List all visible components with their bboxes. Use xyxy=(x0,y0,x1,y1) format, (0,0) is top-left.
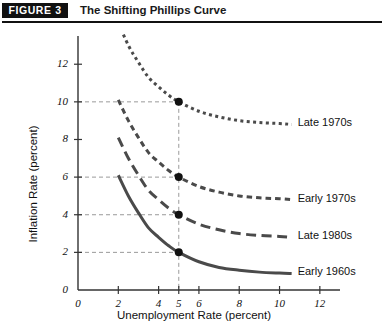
figure-title: The Shifting Phillips Curve xyxy=(80,2,226,18)
marker-point-early-1960s xyxy=(175,248,183,256)
series-label-late-1980s: Late 1980s xyxy=(298,229,352,241)
y-tick-label: 8 xyxy=(48,132,68,144)
y-tick-label: 6 xyxy=(48,170,68,182)
curve-late-1970s xyxy=(118,26,291,124)
x-tick-label: 4 xyxy=(149,297,169,309)
x-tick-label: 10 xyxy=(270,297,290,309)
y-tick-label: 0 xyxy=(48,283,68,295)
x-tick-label: 2 xyxy=(108,297,128,309)
x-tick-label: 5 xyxy=(169,297,189,309)
marker-point-late-1970s xyxy=(175,98,183,106)
y-tick-label: 12 xyxy=(48,57,68,69)
x-tick-label: 8 xyxy=(229,297,249,309)
marker-points-group xyxy=(175,98,183,257)
y-axis-title: Inflation Rate (percent) xyxy=(27,104,39,264)
figure-number-badge: FIGURE 3 xyxy=(2,3,68,18)
figure-header: FIGURE 3 The Shifting Phillips Curve xyxy=(0,0,384,28)
series-label-late-1970s: Late 1970s xyxy=(298,116,352,128)
x-tick-label: 0 xyxy=(68,297,88,309)
x-tick-label: 12 xyxy=(310,297,330,309)
axes-group xyxy=(74,36,340,294)
marker-point-early-1970s xyxy=(175,173,183,181)
y-tick-label: 4 xyxy=(48,208,68,220)
x-tick-label: 6 xyxy=(189,297,209,309)
y-tick-label: 2 xyxy=(48,245,68,257)
y-tick-label: 10 xyxy=(48,95,68,107)
series-label-early-1970s: Early 1970s xyxy=(298,192,356,204)
x-axis-title: Unemployment Rate (percent) xyxy=(78,309,310,321)
header-divider xyxy=(2,21,382,23)
phillips-curve-chart: 024681012 0245681012 Late 1970sEarly 197… xyxy=(0,26,384,335)
series-label-early-1960s: Early 1960s xyxy=(298,265,356,277)
marker-point-late-1980s xyxy=(175,211,183,219)
curves-group xyxy=(118,26,291,273)
